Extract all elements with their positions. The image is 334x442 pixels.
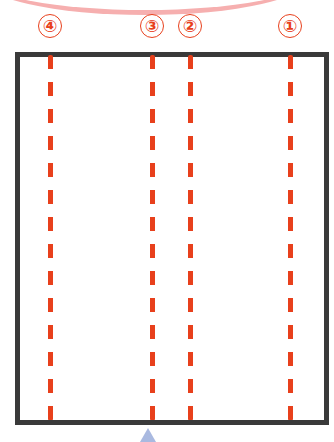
cut-line-4 [48,55,53,421]
line-label-1: ① [278,14,302,38]
line-label-3: ③ [140,14,164,38]
cut-line-3 [150,55,155,421]
arrow-up-icon [140,428,156,442]
decorative-arc [0,0,310,15]
line-label-4: ④ [38,14,62,38]
cut-line-2 [188,55,193,421]
cut-line-1 [288,55,293,421]
rectangle-outline [15,52,329,425]
line-label-2: ② [178,14,202,38]
